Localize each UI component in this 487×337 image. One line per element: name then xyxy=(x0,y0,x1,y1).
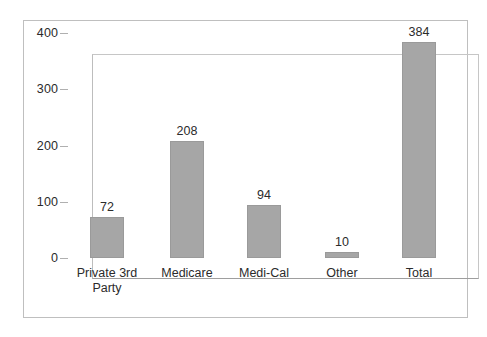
y-tick-0 xyxy=(60,258,68,259)
x-axis-label-other: Other xyxy=(302,266,382,281)
y-axis-label-0: 0 xyxy=(12,252,58,264)
x-axis-label-private-3rd-party-line2: Party xyxy=(67,281,147,296)
y-axis-labels: 400 300 200 100 0 xyxy=(0,0,58,337)
y-axis-label-300: 300 xyxy=(12,83,58,95)
x-axis-label-other-line1: Other xyxy=(302,266,382,281)
x-axis-label-medicare-line1: Medicare xyxy=(147,266,227,281)
plot-area xyxy=(92,54,479,279)
x-axis-label-total-line1: Total xyxy=(379,266,459,281)
x-axis-label-private-3rd-party-line1: Private 3rd xyxy=(67,266,147,281)
x-axis-label-total: Total xyxy=(379,266,459,281)
y-tick-200 xyxy=(60,146,68,147)
y-axis-label-200: 200 xyxy=(12,140,58,152)
x-axis-label-medi-cal-line1: Medi-Cal xyxy=(224,266,304,281)
y-tick-400 xyxy=(60,33,68,34)
y-tick-300 xyxy=(60,89,68,90)
y-axis-label-400: 400 xyxy=(12,27,58,39)
x-axis-label-medi-cal: Medi-Cal xyxy=(224,266,304,281)
x-axis-label-medicare: Medicare xyxy=(147,266,227,281)
x-axis-label-private-3rd-party: Private 3rd Party xyxy=(67,266,147,296)
y-axis-label-100: 100 xyxy=(12,196,58,208)
y-tick-100 xyxy=(60,202,68,203)
